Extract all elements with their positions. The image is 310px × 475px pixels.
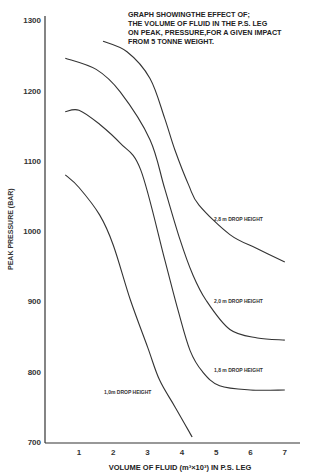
y-tick-900: 900	[28, 297, 42, 306]
title-line: THE VOLUME OF FLUID IN THE P.S. LEG	[128, 19, 268, 28]
x-axis-label: VOLUME OF FLUID (m³×10³) IN P.S. LEG	[109, 463, 252, 472]
x-tick-4: 4	[180, 448, 185, 457]
title-line: GRAPH SHOWINGTHE EFFECT OF;	[128, 10, 250, 19]
curve-labels: 2,8 m DROP HEIGHT2,0 m DROP HEIGHT1,8 m …	[104, 216, 263, 395]
y-tick-1100: 1100	[24, 157, 42, 166]
curve-2-8m-label: 2,8 m DROP HEIGHT	[214, 216, 263, 222]
x-tick-labels: 1234567	[77, 448, 288, 457]
x-tick-5: 5	[214, 448, 219, 457]
y-tick-1000: 1000	[23, 227, 41, 236]
title-line: FROM 5 TONNE WEIGHT.	[128, 37, 214, 46]
y-tick-700: 700	[28, 438, 42, 447]
curves	[65, 41, 285, 437]
y-tick-1300: 1300	[23, 16, 41, 25]
x-tick-7: 7	[283, 448, 288, 457]
curve-1-8m-label: 1,8 m DROP HEIGHT	[214, 367, 263, 373]
line-chart: 7008009001000110012001300 1234567 PEAK P…	[0, 0, 310, 475]
y-tick-800: 800	[28, 368, 42, 377]
title-line: ON PEAK, PRESSURE,FOR A GIVEN IMPACT	[128, 28, 282, 37]
curve-2-0m-label: 2,0 m DROP HEIGHT	[214, 298, 263, 304]
x-tick-6: 6	[248, 448, 253, 457]
curve-1-0m-label: 1,0m DROP HEIGHT	[104, 389, 151, 395]
x-tick-2: 2	[111, 448, 116, 457]
chart-title: GRAPH SHOWINGTHE EFFECT OF;THE VOLUME OF…	[128, 10, 282, 46]
y-axis-label: PEAK PRESSURE (BAR)	[7, 188, 15, 270]
y-tick-1200: 1200	[23, 87, 41, 96]
x-tick-1: 1	[77, 448, 82, 457]
x-tick-3: 3	[145, 448, 150, 457]
y-tick-labels: 7008009001000110012001300	[23, 16, 41, 447]
curve-1-0m	[65, 175, 192, 437]
